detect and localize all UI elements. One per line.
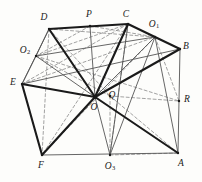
edge-O3-O1	[110, 37, 155, 155]
dashed-edge-layer	[22, 24, 179, 155]
vertex-label-a: A	[178, 159, 184, 169]
vertex-dot-o3	[109, 154, 111, 156]
vertex-dot-o	[93, 95, 97, 99]
vertex-dot-e	[21, 83, 23, 85]
vertex-dot-d	[48, 28, 50, 30]
vertex-label-q: Q	[109, 91, 116, 101]
vertex-dot-c	[127, 23, 129, 25]
vertex-label-text: B	[183, 41, 189, 51]
vertex-label-text: F	[38, 160, 44, 170]
vertex-dot-f	[41, 154, 43, 156]
edge-D-O	[49, 29, 95, 97]
vertex-label-text: Q	[109, 90, 116, 100]
vertex-dot-r	[178, 100, 180, 102]
vertex-label-b: B	[183, 42, 189, 52]
vertex-label-text: R	[184, 94, 190, 104]
vertex-label-o1: O1	[149, 20, 159, 30]
vertex-dot-o1	[154, 36, 156, 38]
vertex-dot-p	[89, 25, 91, 27]
dash-D-F	[42, 29, 49, 155]
vertex-dot-a	[177, 152, 179, 154]
vertex-label-text: C	[123, 9, 129, 19]
vertex-label-text: P	[86, 9, 92, 19]
vertex-label-f: F	[38, 161, 44, 171]
figure-canvas	[0, 0, 202, 182]
edge-O1-A	[155, 37, 178, 153]
vertex-label-o: O	[91, 103, 98, 113]
vertex-dot-b	[179, 48, 181, 50]
vertex-label-text: E	[10, 77, 16, 87]
vertex-label-d: D	[41, 13, 48, 23]
vertex-label-subscript: 1	[156, 22, 159, 29]
vertex-label-p: P	[86, 10, 92, 20]
vertex-label-text: O	[105, 161, 112, 171]
vertex-label-text: O	[91, 102, 98, 112]
edge-O2-O1	[36, 37, 155, 56]
vertex-label-e: E	[10, 78, 16, 88]
dash-Q-A	[110, 96, 178, 153]
vertex-dot-o2	[35, 55, 37, 57]
vertex-label-text: O	[20, 45, 27, 55]
vertex-label-o2: O2	[20, 46, 30, 56]
vertex-label-text: D	[41, 12, 48, 22]
dash-C-E	[22, 24, 128, 84]
vertex-label-c: C	[123, 10, 129, 20]
geometry-figure: ABCDEFOO1O2O3PQR	[0, 0, 202, 182]
vertex-label-subscript: 2	[27, 48, 30, 55]
vertex-label-o3: O3	[105, 162, 115, 172]
vertex-label-text: O	[149, 19, 156, 29]
vertex-label-r: R	[184, 95, 190, 105]
edge-E-O	[22, 84, 95, 97]
vertex-label-subscript: 3	[112, 164, 115, 171]
vertex-label-text: A	[178, 158, 184, 168]
dash-Q-R	[110, 96, 179, 101]
edge-E-F	[22, 84, 42, 155]
edge-F-O	[42, 97, 95, 155]
